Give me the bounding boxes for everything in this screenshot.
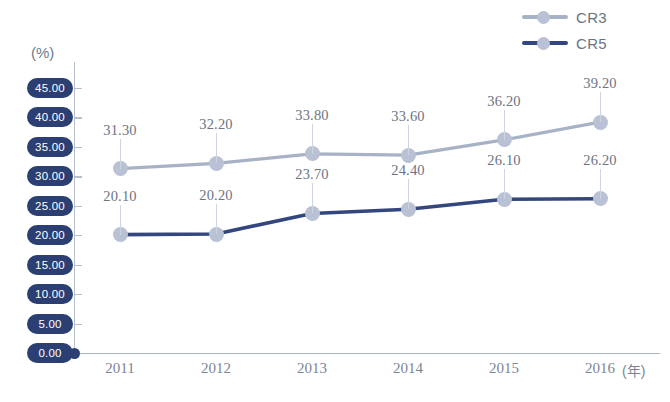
legend-dot-cr5 [537,37,550,50]
y-axis-tick-35-00: 35.00 [27,137,73,157]
y-axis-tick-40-00: 40.00 [27,107,73,127]
y-tick-mark [75,176,82,177]
x-axis-line [74,353,660,354]
label-leader-line [504,110,505,140]
data-label-cr5-2015: 26.10 [467,152,541,169]
y-tick-mark [75,265,82,266]
y-axis-tick-45-00: 45.00 [27,78,73,98]
y-axis-tick-20-00: 20.00 [27,225,73,245]
label-leader-line [120,205,121,235]
y-axis-tick-0-00: 0.00 [27,343,73,363]
legend-label-cr3: CR3 [576,9,607,26]
x-axis-tick-2014: 2014 [373,360,443,377]
y-tick-mark [75,294,82,295]
data-label-cr5-2014: 24.40 [371,162,445,179]
y-axis-tick-25-00: 25.00 [27,196,73,216]
label-leader-line [312,124,313,154]
data-label-cr3-2011: 31.30 [83,122,157,139]
label-leader-line [504,169,505,199]
label-leader-line [120,139,121,169]
data-label-cr3-2012: 32.20 [179,116,253,133]
legend-label-cr5: CR5 [576,35,607,52]
y-axis-unit-label: (%) [31,44,54,61]
line-chart: CR3 CR5 (%) 45.0040.0035.0030.0025.0020.… [0,0,670,402]
y-tick-mark [75,117,82,118]
series-line-cr5 [120,199,600,235]
data-label-cr3-2016: 39.20 [563,75,637,92]
label-leader-line [216,133,217,163]
x-axis-tick-2011: 2011 [85,360,155,377]
y-axis-tick-5-00: 5.00 [27,314,73,334]
data-label-cr3-2015: 36.20 [467,93,541,110]
legend-item-cr3[interactable]: CR3 [522,6,642,28]
label-leader-line [216,204,217,234]
label-leader-line [312,183,313,213]
y-tick-mark [75,324,82,325]
data-label-cr3-2013: 33.80 [275,107,349,124]
label-leader-line [600,92,601,122]
y-tick-mark [75,147,82,148]
data-label-cr5-2016: 26.20 [563,152,637,169]
y-tick-mark [75,206,82,207]
x-axis-unit-label: (年) [622,360,645,380]
label-leader-line [408,125,409,155]
chart-legend: CR3 CR5 [522,6,642,58]
legend-marker-cr5-icon [522,35,568,51]
y-tick-mark [75,235,82,236]
label-leader-line [408,179,409,209]
y-tick-mark [75,88,82,89]
data-label-cr5-2012: 20.20 [179,187,253,204]
legend-marker-cr3-icon [522,9,568,25]
y-axis-tick-15-00: 15.00 [27,255,73,275]
x-axis-tick-2015: 2015 [469,360,539,377]
x-axis-tick-2013: 2013 [277,360,347,377]
label-leader-line [600,169,601,199]
y-axis-tick-10-00: 10.00 [27,284,73,304]
x-axis-tick-2012: 2012 [181,360,251,377]
data-label-cr5-2013: 23.70 [275,166,349,183]
y-axis-tick-30-00: 30.00 [27,166,73,186]
data-label-cr3-2014: 33.60 [371,108,445,125]
legend-dot-cr3 [537,11,550,24]
legend-item-cr5[interactable]: CR5 [522,32,642,54]
y-axis-line [74,62,75,353]
data-label-cr5-2011: 20.10 [83,188,157,205]
